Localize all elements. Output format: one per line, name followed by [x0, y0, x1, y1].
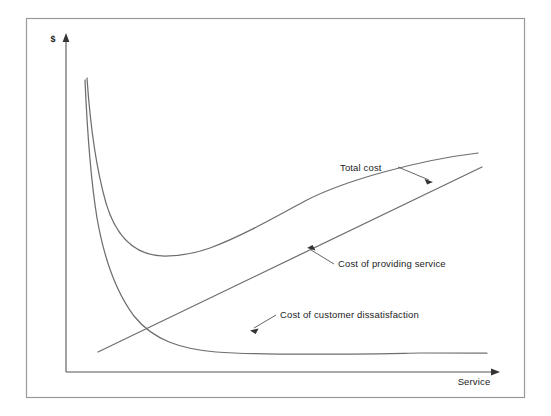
- annotation-label-cost-of-customer-dissatisfaction: Cost of customer dissatisfaction: [280, 309, 419, 320]
- chart-figure: $ Service Total cost Cost of providing s…: [0, 0, 551, 416]
- figure-border: [27, 19, 525, 398]
- chart-canvas: $ Service Total cost Cost of providing s…: [0, 0, 551, 416]
- annotation-label-cost-of-providing-service: Cost of providing service: [338, 258, 446, 269]
- x-axis-title: Service: [458, 376, 491, 387]
- y-axis-title: $: [50, 34, 55, 44]
- annotation-label-total-cost: Total cost: [340, 162, 382, 173]
